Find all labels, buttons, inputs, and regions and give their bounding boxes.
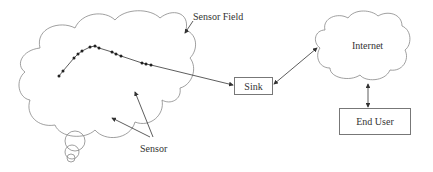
wsn-diagram: Sensor Field Sensor Internet Sink End Us… bbox=[0, 0, 433, 172]
internet-label: Internet bbox=[352, 40, 383, 51]
diagram-canvas bbox=[0, 0, 433, 172]
sensor-arrows bbox=[112, 21, 193, 137]
end-user-node: End User bbox=[339, 108, 411, 135]
sensor-field-label: Sensor Field bbox=[193, 11, 243, 22]
sink-node: Sink bbox=[234, 77, 273, 95]
sensor-path bbox=[58, 45, 234, 86]
sensor-label: Sensor bbox=[140, 143, 167, 154]
sensor-field-cloud bbox=[19, 11, 196, 162]
sink-internet-arrow bbox=[274, 48, 317, 84]
